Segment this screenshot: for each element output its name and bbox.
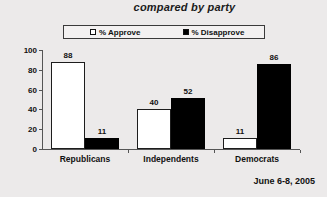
y-axis-tick-label: 80: [4, 65, 42, 74]
y-axis-tick-mark: [39, 50, 42, 51]
bar-value-label: 40: [150, 98, 159, 107]
y-axis-line: [42, 50, 43, 150]
bar-disapprove: [171, 98, 205, 149]
x-axis-line: [42, 149, 300, 150]
y-axis-tick-label: 20: [4, 125, 42, 134]
filled-square-icon: [183, 29, 189, 35]
bar-value-label: 88: [64, 51, 73, 60]
bar-value-label: 11: [236, 127, 244, 136]
plot-area: 020406080100 881140521186: [42, 50, 300, 150]
legend-item-disapprove: % Disapprove: [183, 28, 245, 37]
legend-item-approve: % Approve: [90, 28, 141, 37]
bar-approve: [51, 62, 85, 149]
legend-label-approve: % Approve: [99, 28, 141, 37]
hollow-square-icon: [90, 29, 96, 35]
y-axis-tick-mark: [39, 109, 42, 110]
bar-value-label: 52: [184, 87, 193, 96]
y-axis-tick-label: 0: [4, 145, 42, 154]
x-axis-category-label: Republicans: [60, 154, 111, 164]
y-axis-tick-mark: [39, 149, 42, 150]
footer-date: June 6-8, 2005: [253, 176, 315, 186]
bar-value-label: 86: [270, 53, 279, 62]
bar-approve: [223, 138, 257, 149]
chart-figure: compared by party % Approve % Disapprove…: [0, 0, 327, 197]
x-axis-category-label: Democrats: [235, 154, 279, 164]
y-axis-tick-mark: [39, 70, 42, 71]
x-axis-category-label: Independents: [143, 154, 198, 164]
y-axis-tick-mark: [39, 129, 42, 130]
x-axis-tick-mark: [214, 150, 215, 153]
x-axis-tick-mark: [128, 150, 129, 153]
bar-approve: [137, 109, 171, 149]
y-axis-tick-label: 40: [4, 105, 42, 114]
y-axis-tick-label: 100: [4, 46, 42, 55]
bar-value-label: 11: [98, 127, 106, 136]
y-axis-tick-label: 60: [4, 85, 42, 94]
y-axis-tick-mark: [39, 90, 42, 91]
bar-disapprove: [85, 138, 119, 149]
page-title: compared by party: [0, 1, 327, 13]
chart-legend: % Approve % Disapprove: [63, 25, 265, 39]
bar-disapprove: [257, 64, 291, 149]
x-axis-tick-mark: [300, 150, 301, 153]
legend-label-disapprove: % Disapprove: [192, 28, 245, 37]
